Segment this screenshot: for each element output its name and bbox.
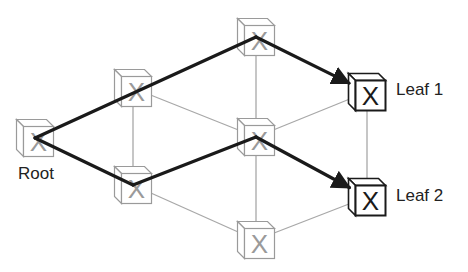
switch-x-icon: X [362, 186, 379, 216]
leaf-1-label: Leaf 1 [396, 80, 443, 100]
path-2-segment [133, 137, 256, 185]
switch-x-icon: X [362, 81, 379, 111]
nodes-layer: XXXXXXXX [17, 19, 386, 259]
path-1-segment [35, 37, 256, 138]
path-1-segment [256, 37, 349, 83]
switch-node-n5: X [238, 222, 275, 259]
path-2-segment [256, 137, 349, 187]
switch-x-icon: X [251, 229, 268, 259]
multicast-tree-diagram: XXXXXXXX [0, 0, 468, 272]
leaf-2-label: Leaf 2 [396, 186, 443, 206]
switch-node-leaf1: X [349, 74, 386, 111]
switch-x-icon: X [128, 174, 145, 204]
switch-node-leaf2: X [349, 179, 386, 216]
root-label: Root [18, 164, 54, 184]
